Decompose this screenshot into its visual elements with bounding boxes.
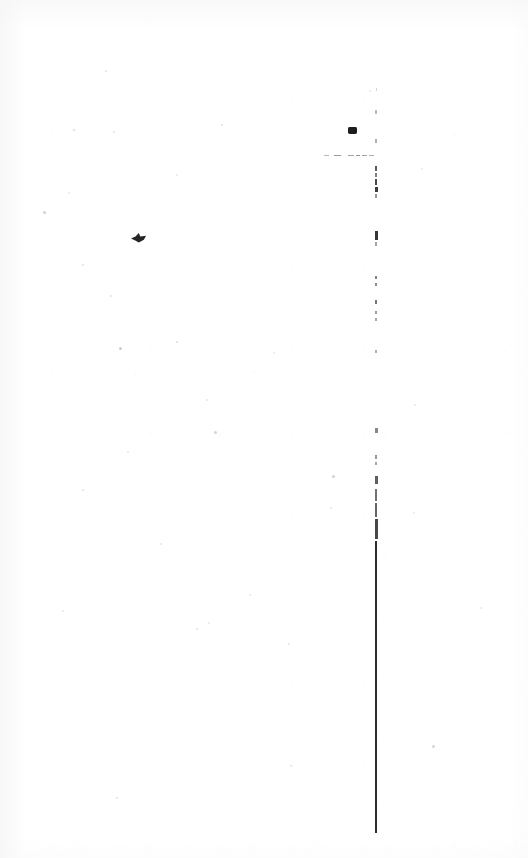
paper-background (0, 0, 528, 858)
dust-speck (480, 607, 482, 609)
horizontal-dash-segment (356, 155, 360, 156)
vertical-rule-segment (375, 242, 377, 246)
dust-speck (160, 543, 162, 545)
scanned-page: Blank scanned page No legible text prese… (0, 0, 528, 858)
horizontal-dash-segment (362, 155, 367, 156)
dust-speck (413, 512, 415, 514)
horizontal-dash-segment (348, 155, 354, 156)
dust-speck (68, 192, 70, 194)
dust-speck (82, 264, 84, 266)
dust-speck (332, 475, 335, 478)
vertical-rule-segment (376, 88, 377, 91)
dust-speck (290, 765, 292, 767)
dust-speck (330, 507, 332, 509)
dust-speck (43, 211, 46, 214)
horizontal-dash-segment (324, 155, 329, 156)
dust-speck (208, 622, 210, 624)
vertical-rule-segment (375, 231, 378, 240)
dust-speck (105, 70, 107, 72)
dust-speck (176, 341, 178, 343)
dust-speck (288, 643, 290, 645)
dust-speck (421, 168, 423, 170)
vertical-rule-segment (375, 462, 377, 465)
vertical-rule-segment (375, 489, 377, 501)
dust-speck (196, 628, 198, 630)
vertical-rule-segment (375, 455, 377, 459)
vertical-rule-segment (375, 476, 378, 484)
vertical-rule-segment (375, 541, 377, 833)
dust-speck (119, 347, 122, 350)
dust-speck (113, 131, 115, 133)
vertical-rule-segment (375, 503, 377, 517)
dust-speck (206, 399, 208, 401)
dust-speck (127, 451, 129, 453)
dust-speck (73, 129, 75, 131)
vertical-rule-segment (375, 110, 377, 114)
vertical-rule-segment (375, 283, 377, 286)
vertical-rule-segment (375, 194, 377, 198)
vertical-rule-segment (375, 166, 377, 171)
vertical-rule-segment (375, 179, 377, 185)
dust-speck (221, 124, 223, 126)
vertical-rule-segment (375, 350, 377, 353)
vertical-rule-segment (375, 139, 377, 143)
ink-blot-square (348, 127, 357, 134)
dust-speck (214, 431, 217, 434)
dust-speck (176, 174, 178, 176)
vertical-rule-segment (375, 519, 378, 539)
vertical-rule-segment (375, 318, 377, 321)
vertical-rule-segment (375, 311, 377, 314)
vertical-rule-segment (375, 187, 378, 192)
vertical-rule-segment (375, 300, 377, 304)
dust-speck (414, 404, 416, 406)
dust-speck (273, 352, 275, 354)
dust-speck (116, 797, 118, 799)
dust-speck (369, 90, 371, 92)
vertical-rule-segment (375, 276, 377, 279)
dust-speck (62, 610, 64, 612)
vertical-rule-segment (375, 428, 378, 433)
horizontal-dash-segment (369, 155, 374, 156)
dust-speck (82, 489, 84, 491)
dust-speck (432, 745, 435, 748)
horizontal-dash-segment (334, 155, 341, 156)
vertical-rule-segment (375, 173, 377, 177)
dust-speck (249, 594, 251, 596)
dust-speck (110, 295, 112, 297)
